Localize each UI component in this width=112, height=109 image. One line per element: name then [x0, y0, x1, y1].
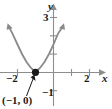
y-tick-label-3: 3: [43, 12, 49, 23]
x-tick-label-neg2: −2: [6, 73, 18, 84]
curve-right-arrowhead: [59, 23, 65, 30]
graph-canvas: [0, 0, 112, 109]
parabola-path: [9, 27, 63, 72]
curve-left-arrowhead: [7, 23, 13, 30]
y-tick-label-neg1: −1: [42, 87, 54, 98]
point-annotation-label: (−1, 0): [2, 95, 32, 106]
parabola-curve: [7, 23, 65, 72]
marked-point-dot: [32, 69, 39, 76]
x-axis-label: x: [102, 73, 108, 84]
x-tick-label-2: 2: [84, 73, 90, 84]
parabola-figure: y x 3 −1 −2 2 (−1, 0): [0, 0, 112, 109]
annotation-leader: [27, 75, 36, 96]
